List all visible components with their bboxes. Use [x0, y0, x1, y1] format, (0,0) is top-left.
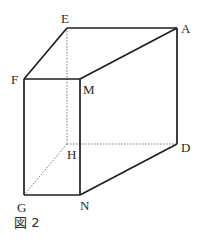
- vertex-label-E: E: [61, 11, 69, 26]
- vertex-label-G: G: [17, 200, 26, 215]
- vertex-label-D: D: [181, 140, 190, 155]
- vertex-label-F: F: [11, 72, 18, 87]
- edge-EF: [24, 28, 67, 79]
- vertex-label-M: M: [83, 82, 95, 97]
- edge-ND: [80, 144, 177, 195]
- vertex-label-N: N: [80, 198, 90, 213]
- vertex-label-H: H: [67, 147, 76, 162]
- edge-MA: [80, 28, 177, 79]
- vertex-label-A: A: [181, 21, 191, 36]
- figure-caption: 図 2: [14, 215, 39, 230]
- edge-HG-hidden: [24, 144, 67, 195]
- prism-diagram: E A F M H D G N 図 2: [0, 0, 201, 244]
